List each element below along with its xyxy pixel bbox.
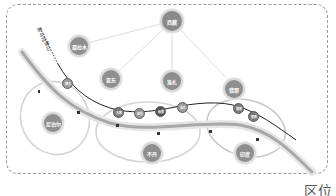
node-label: 聂拉木: [72, 43, 87, 50]
marker: [157, 132, 160, 135]
route-node-3[interactable]: 亚东: [134, 108, 145, 119]
node-ring-2[interactable]: 亚东: [102, 70, 120, 88]
marker: [256, 138, 259, 141]
link-line: [118, 21, 172, 72]
node-label: 墨脱: [251, 115, 257, 119]
marker: [116, 124, 119, 127]
node-label: 亚东: [137, 112, 143, 116]
node-label: 洛扎: [167, 78, 177, 85]
node-country-nepal[interactable]: 尼泊尔: [44, 114, 62, 132]
route-node-7[interactable]: 墨脱: [248, 111, 259, 122]
node-label: 印度: [240, 150, 250, 157]
link-line: [172, 21, 234, 86]
link-line: [80, 21, 172, 45]
node-ring-3[interactable]: 洛扎: [163, 72, 181, 90]
route-node-2[interactable]: 吉隆: [113, 107, 124, 118]
node-label: 帕里: [158, 110, 164, 114]
node-label: 不丹: [147, 150, 157, 157]
node-label: 错那: [229, 86, 239, 93]
marker: [77, 111, 80, 114]
node-label: 错那: [236, 107, 242, 111]
route-node-1[interactable]: 樟木: [62, 78, 73, 89]
section-title: 区位: [304, 180, 332, 196]
node-label: 亚东: [106, 76, 116, 83]
node-label: 樟木: [65, 82, 71, 86]
node-label: 洛扎: [180, 106, 186, 110]
route-node-4[interactable]: 帕里: [155, 106, 166, 117]
route-node-5[interactable]: 洛扎: [177, 102, 188, 113]
route-node-6[interactable]: 错那: [233, 103, 244, 114]
marker: [38, 90, 40, 93]
node-ring-4[interactable]: 错那: [225, 80, 243, 98]
node-label: 吉隆: [116, 111, 122, 115]
node-ring-1[interactable]: 聂拉木: [70, 37, 88, 55]
node-country-bhutan[interactable]: 不丹: [143, 144, 161, 162]
node-label: 尼泊尔: [46, 120, 61, 127]
node-tibet[interactable]: 西藏: [162, 11, 182, 31]
node-label: 西藏: [167, 18, 177, 25]
marker: [209, 130, 212, 133]
node-country-india[interactable]: 印度: [236, 144, 254, 162]
